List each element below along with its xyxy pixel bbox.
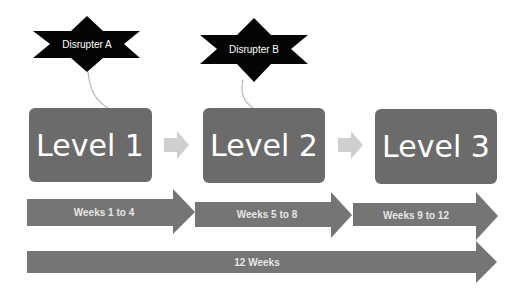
phase-2-arrow: Weeks 5 to 8: [195, 192, 352, 238]
phase-3-arrow: Weeks 9 to 12: [353, 192, 498, 240]
level-1-label: Level 1: [36, 128, 144, 163]
level-3-box: Level 3: [375, 109, 497, 184]
connector-disrupter-b: [242, 80, 253, 108]
disrupter-a-label: Disrupter A: [62, 39, 112, 50]
phase-2-label: Weeks 5 to 8: [237, 209, 298, 220]
phase-1-arrow: Weeks 1 to 4: [27, 189, 195, 234]
level-2-label: Level 2: [210, 128, 318, 163]
arrow-right-icon: [338, 131, 363, 159]
arrow-right-icon: [164, 131, 189, 159]
level-1-box: Level 1: [29, 108, 152, 182]
phase-1-label: Weeks 1 to 4: [74, 207, 135, 218]
disrupter-b-label: Disrupter B: [229, 44, 279, 55]
phase-3-label: Weeks 9 to 12: [383, 210, 449, 221]
level-2-box: Level 2: [203, 108, 325, 183]
total-duration-label: 12 Weeks: [234, 257, 280, 268]
timeline-diagram: Disrupter A Disrupter B Level 1 Level 2 …: [0, 0, 523, 298]
level-3-label: Level 3: [382, 129, 490, 164]
connector-disrupter-a: [88, 72, 108, 108]
total-duration-arrow: 12 Weeks: [27, 241, 497, 283]
disrupter-b-star: Disrupter B: [200, 18, 308, 82]
disrupter-a-star: Disrupter A: [33, 16, 140, 72]
